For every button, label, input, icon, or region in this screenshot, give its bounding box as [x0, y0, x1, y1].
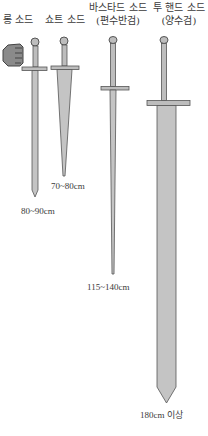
short-sword-length: 70~80cm — [51, 181, 85, 191]
short-sword-illustration — [51, 37, 79, 176]
sword-illustrations — [0, 0, 208, 436]
two-hand-sword-length: 180cm 이상 — [140, 408, 183, 421]
bastard-sword-length: 115~140cm — [87, 282, 130, 292]
long-sword-length: 80~90cm — [21, 206, 55, 216]
bastard-sword-illustration — [101, 37, 129, 275]
two-hand-sword-illustration — [147, 37, 190, 404]
fist-icon — [3, 44, 23, 66]
long-sword-illustration — [22, 38, 47, 197]
